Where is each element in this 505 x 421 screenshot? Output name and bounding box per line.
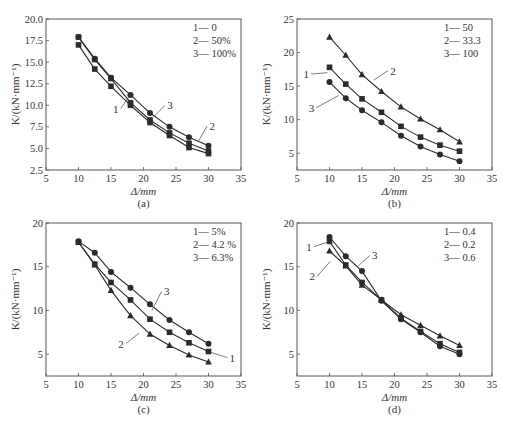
x-tick-label: 15 (357, 379, 368, 390)
series-annotation-label: 1 (230, 352, 236, 364)
circle-marker (147, 301, 153, 307)
circle-marker (147, 110, 153, 116)
legend-entry: 2— 4.2 % (193, 239, 236, 250)
circle-marker (437, 152, 443, 158)
circle-marker (128, 285, 134, 291)
circle-marker (359, 268, 365, 274)
y-tick-label: 20 (284, 218, 295, 229)
series-line-3 (79, 37, 209, 146)
circle-marker (343, 253, 349, 259)
series-annotation-label: 3 (164, 285, 170, 297)
square-marker (167, 329, 173, 335)
y-tick-label: 15 (284, 81, 295, 92)
y-tick-label: 5 (289, 349, 294, 360)
circle-marker (327, 234, 333, 240)
legend-entry: 2— 0.2 (444, 239, 476, 250)
legend-entry: 1— 5% (193, 226, 226, 237)
triangle-marker (437, 126, 444, 132)
circle-marker (206, 341, 212, 347)
triangle-marker (456, 138, 463, 144)
circle-marker (379, 298, 385, 304)
square-marker (147, 316, 153, 322)
series-annotation-label: 2 (118, 338, 124, 350)
x-axis-label: Δ/mm (381, 391, 407, 403)
annotation-leader (126, 333, 139, 343)
x-tick-label: 5 (43, 379, 48, 390)
circle-marker (418, 329, 424, 335)
series-line-2 (330, 251, 460, 345)
annotation-leader (317, 96, 339, 108)
y-tick-label: 20 (284, 47, 295, 58)
square-marker (437, 142, 443, 148)
triangle-marker (108, 287, 115, 293)
chart-panel-c: 51015202530355101520Δ/mmK/(kN·mm⁻¹)(c)1—… (9, 218, 246, 417)
annotation-leader (153, 105, 165, 117)
circle-marker (398, 316, 404, 322)
x-tick-label: 30 (203, 379, 214, 390)
y-tick-label: 25 (284, 14, 295, 25)
circle-marker (418, 144, 424, 150)
x-tick-label: 15 (106, 173, 117, 184)
annotation-leader (317, 261, 330, 276)
panel-caption: (a) (137, 197, 150, 210)
triangle-marker (456, 342, 463, 348)
x-tick-label: 10 (73, 379, 84, 390)
circle-marker (76, 238, 82, 244)
circle-marker (379, 119, 385, 125)
square-marker (398, 124, 404, 130)
y-axis-label: K/(kN·mm⁻¹) (260, 268, 273, 330)
circle-marker (92, 250, 98, 256)
y-axis-label: K/(kN·mm⁻¹) (260, 63, 273, 125)
circle-marker (437, 343, 443, 349)
circle-marker (167, 124, 173, 130)
series-annotation-label: 2 (390, 65, 396, 77)
x-tick-label: 35 (487, 173, 498, 184)
circle-marker (92, 56, 98, 62)
y-tick-label: 15 (284, 261, 295, 272)
x-tick-label: 15 (357, 173, 368, 184)
square-marker (108, 280, 114, 286)
triangle-marker (186, 351, 193, 357)
panel-caption: (b) (388, 197, 401, 210)
x-tick-label: 15 (106, 379, 117, 390)
y-tick-label: 10 (284, 305, 295, 316)
square-marker (128, 297, 134, 303)
y-tick-label: 15 (33, 261, 44, 272)
x-tick-label: 35 (236, 379, 247, 390)
x-axis-label: Δ/mm (130, 185, 156, 197)
triangle-marker (326, 247, 333, 253)
annotation-leader (211, 352, 227, 357)
square-marker (76, 42, 82, 48)
y-tick-label: 2.5 (30, 165, 43, 176)
panel-caption: (c) (137, 403, 150, 416)
annotation-leader (311, 73, 327, 74)
circle-marker (457, 351, 463, 357)
series-line-2 (330, 37, 460, 142)
square-marker (418, 134, 424, 140)
y-tick-label: 12.5 (25, 78, 43, 89)
x-tick-label: 20 (138, 173, 149, 184)
chart-panel-d: 51015202530355101520Δ/mmK/(kN·mm⁻¹)(d)1—… (260, 218, 497, 417)
series-annotation-label: 2 (209, 120, 215, 132)
square-marker (379, 109, 385, 115)
square-marker (343, 81, 349, 87)
y-tick-label: 7.5 (30, 121, 43, 132)
square-marker (167, 130, 173, 136)
annotation-leader (199, 126, 207, 141)
x-tick-label: 10 (324, 173, 335, 184)
x-tick-label: 25 (422, 173, 433, 184)
y-axis-label: K/(kN·mm⁻¹) (9, 63, 22, 125)
panel-caption: (d) (388, 403, 401, 416)
x-tick-label: 25 (171, 173, 182, 184)
annotation-leader (357, 255, 369, 266)
series-annotation-label: 3 (372, 249, 378, 261)
y-tick-label: 10.0 (25, 100, 43, 111)
y-tick-label: 20 (33, 218, 44, 229)
series-annotation-label: 1 (113, 103, 119, 115)
x-tick-label: 20 (389, 173, 400, 184)
series-annotation-label: 2 (309, 270, 315, 282)
circle-marker (398, 133, 404, 139)
square-marker (108, 84, 114, 90)
square-marker (186, 140, 192, 146)
y-tick-label: 20.0 (25, 14, 43, 25)
